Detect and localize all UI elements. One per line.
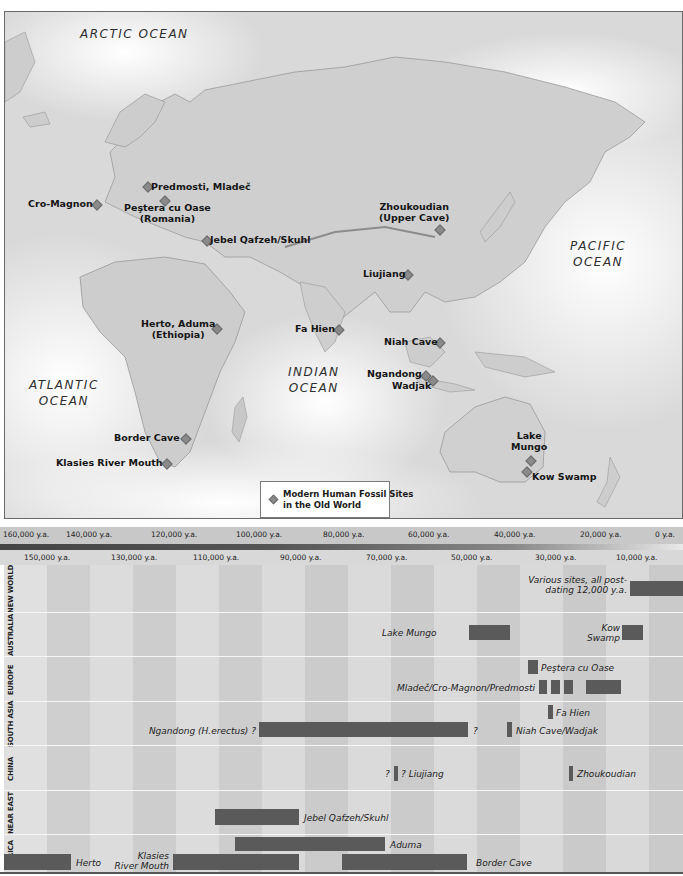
label-border-cave: Border Cave <box>476 858 532 868</box>
bar-fa-hien[interactable] <box>548 705 553 719</box>
tick-150000: 150,000 y.a. <box>24 553 70 562</box>
site-zhoukoudian[interactable]: Zhoukoudian (Upper Cave) <box>379 201 449 223</box>
row-label-south-asia: SOUTH ASIA <box>7 701 15 747</box>
label-jebel: Jebel Qafzeh/Skuhl <box>304 813 388 823</box>
label-kow-swamp: Kow Swamp <box>587 623 620 643</box>
tick-130000: 130,000 y.a. <box>111 553 157 562</box>
bar-mladec-1[interactable] <box>539 680 547 694</box>
site-cro-magnon[interactable]: Cro-Magnon <box>28 198 93 209</box>
bar-aduma[interactable] <box>235 837 385 851</box>
bar-liujiang[interactable] <box>394 766 398 781</box>
arctic-ocean-label: ARCTIC OCEAN <box>80 26 189 42</box>
atlantic-ocean-label: ATLANTIC OCEAN <box>29 377 99 409</box>
legend-marker-icon <box>269 495 279 505</box>
bar-lake-mungo[interactable] <box>469 625 510 640</box>
row-china: CHINA ? ? Liujiang Zhoukoudian <box>4 745 683 790</box>
label-zhoukoudian: Zhoukoudian <box>577 769 636 779</box>
tick-80000: 80,000 y.a. <box>323 530 364 539</box>
indian-ocean-label: INDIAN OCEAN <box>288 364 339 396</box>
tick-20000: 20,000 y.a. <box>580 530 621 539</box>
bar-ngandong[interactable] <box>259 722 468 737</box>
row-near-east: NEAR EAST Jebel Qafzeh/Skuhl <box>4 790 683 834</box>
label-various-sites: Various sites, all post- dating 12,000 y… <box>528 575 627 595</box>
bar-border-cave[interactable] <box>342 854 467 870</box>
bar-pestera[interactable] <box>528 660 538 674</box>
label-aduma: Aduma <box>390 840 422 850</box>
row-label-europe: EUROPE <box>7 664 15 695</box>
site-fa-hien[interactable]: Fa Hien <box>295 323 335 334</box>
tick-30000: 30,000 y.a. <box>535 553 576 562</box>
row-label-new-world: NEW WORLD <box>7 564 15 612</box>
bar-jebel[interactable] <box>215 809 299 825</box>
tick-110000: 110,000 y.a. <box>193 553 239 562</box>
label-liujiang-pre: ? <box>385 769 390 779</box>
bar-herto[interactable] <box>4 854 71 870</box>
tick-40000: 40,000 y.a. <box>494 530 535 539</box>
tick-120000: 120,000 y.a. <box>151 530 197 539</box>
site-ngandong[interactable]: Ngandong <box>367 368 422 379</box>
tick-50000: 50,000 y.a. <box>451 553 492 562</box>
site-predmosti[interactable]: Predmosti, Mladeč <box>151 181 251 192</box>
map-legend: Modern Human Fossil Sites in the Old Wor… <box>260 481 390 518</box>
timeline-axis-bottom: 150,000 y.a. 130,000 y.a. 110,000 y.a. 9… <box>0 550 683 565</box>
site-pestera[interactable]: Peştera cu Oase (Romania) <box>124 202 211 224</box>
tick-0: 0 y.a. <box>655 530 675 539</box>
label-mladec: Mladeč/Cro-Magnon/Predmosti <box>397 683 535 693</box>
label-pestera: Peştera cu Oase <box>541 663 614 673</box>
row-south-asia: SOUTH ASIA Fa Hien Ngandong (H.erectus) … <box>4 701 683 745</box>
bar-kow-swamp[interactable] <box>622 625 643 640</box>
row-europe: EUROPE Peştera cu Oase Mladeč/Cro-Magnon… <box>4 656 683 701</box>
tick-70000: 70,000 y.a. <box>366 553 407 562</box>
site-niah-cave[interactable]: Niah Cave <box>384 336 438 347</box>
tick-100000: 100,000 y.a. <box>236 530 282 539</box>
timeline-bottom-border <box>0 872 683 874</box>
bar-mladec-3[interactable] <box>564 680 573 694</box>
bar-mladec-2[interactable] <box>551 680 560 694</box>
label-klasies: Klasies River Mouth <box>115 851 169 871</box>
label-ngandong-q: ? <box>473 726 478 736</box>
label-ngandong: Ngandong (H.erectus) ? <box>149 726 256 736</box>
tick-90000: 90,000 y.a. <box>280 553 321 562</box>
label-lake-mungo: Lake Mungo <box>382 628 437 638</box>
bar-zhoukoudian[interactable] <box>569 766 573 781</box>
bar-klasies[interactable] <box>173 854 299 870</box>
row-label-china: CHINA <box>7 757 15 781</box>
site-lake-mungo[interactable]: Lake Mungo <box>511 430 547 452</box>
timeline-rows: NEW WORLD Various sites, all post- datin… <box>4 565 683 872</box>
site-border-cave[interactable]: Border Cave <box>114 432 180 443</box>
label-liujiang: ? Liujiang <box>401 769 444 779</box>
row-label-near-east: NEAR EAST <box>7 792 15 834</box>
tick-60000: 60,000 y.a. <box>408 530 449 539</box>
row-label-australia: AUSTRALIA <box>7 614 15 656</box>
bar-various-sites[interactable] <box>630 581 683 596</box>
row-new-world: NEW WORLD Various sites, all post- datin… <box>4 565 683 612</box>
pacific-ocean-label: PACIFIC OCEAN <box>570 238 626 270</box>
row-africa: AFRICA Aduma Herto Klasies River Mouth B… <box>4 834 683 872</box>
site-jebel[interactable]: Jebel Qafzeh/Skuhl <box>210 234 311 245</box>
legend-text: Modern Human Fossil Sites in the Old Wor… <box>283 489 413 511</box>
tick-140000: 140,000 y.a. <box>66 530 112 539</box>
bar-niah[interactable] <box>507 722 512 737</box>
fossil-sites-map: ARCTIC OCEAN PACIFIC OCEAN ATLANTIC OCEA… <box>4 11 683 519</box>
bar-mladec-4[interactable] <box>586 680 621 694</box>
row-australia: AUSTRALIA Lake Mungo Kow Swamp <box>4 612 683 656</box>
timeline-axis-top: 160,000 y.a. 140,000 y.a. 120,000 y.a. 1… <box>0 527 683 544</box>
site-herto-aduma[interactable]: Herto, Aduma (Ethiopia) <box>141 318 215 340</box>
site-wadjak[interactable]: Wadjak <box>392 380 431 391</box>
tick-160000: 160,000 y.a. <box>3 530 49 539</box>
site-klasies[interactable]: Klasies River Mouth <box>56 457 163 468</box>
label-herto: Herto <box>76 858 101 868</box>
label-fa-hien: Fa Hien <box>556 708 590 718</box>
site-kow-swamp[interactable]: Kow Swamp <box>532 471 597 482</box>
fossil-timeline-chart: 160,000 y.a. 140,000 y.a. 120,000 y.a. 1… <box>0 527 683 876</box>
label-niah: Niah Cave/Wadjak <box>516 726 598 736</box>
tick-10000: 10,000 y.a. <box>616 553 657 562</box>
site-liujiang[interactable]: Liujiang <box>363 268 406 279</box>
